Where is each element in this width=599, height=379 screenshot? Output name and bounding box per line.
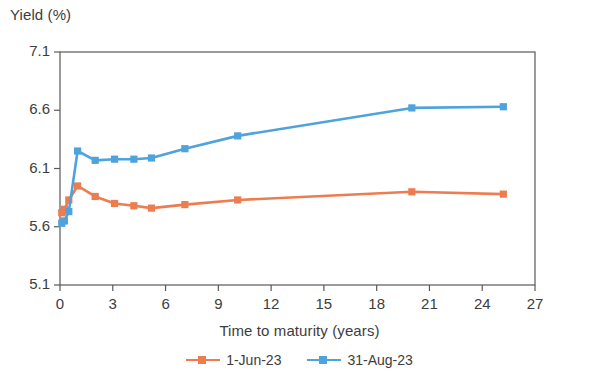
- data-point-marker: [148, 154, 155, 161]
- data-point-marker: [181, 201, 188, 208]
- data-point-marker: [65, 208, 72, 215]
- data-point-marker: [130, 156, 137, 163]
- data-series: [58, 103, 507, 227]
- legend-label: 31-Aug-23: [347, 352, 412, 368]
- plot-frame: [60, 52, 535, 285]
- data-point-marker: [408, 188, 415, 195]
- x-tick-label: 6: [146, 295, 186, 312]
- data-point-marker: [74, 147, 81, 154]
- data-point-marker: [92, 157, 99, 164]
- axes: [54, 52, 535, 291]
- legend-item-2[interactable]: 31-Aug-23: [307, 352, 412, 368]
- x-tick-label: 3: [93, 295, 133, 312]
- x-tick-label: 12: [251, 295, 291, 312]
- data-point-marker: [500, 103, 507, 110]
- y-tick-label: 6.6: [8, 100, 50, 117]
- data-point-marker: [61, 217, 68, 224]
- legend-swatch-icon: [307, 354, 341, 366]
- y-tick-label: 7.1: [8, 42, 50, 59]
- data-point-marker: [408, 104, 415, 111]
- data-point-marker: [92, 193, 99, 200]
- data-point-marker: [500, 191, 507, 198]
- x-tick-label: 9: [198, 295, 238, 312]
- data-point-marker: [111, 200, 118, 207]
- series-line-1: [62, 186, 504, 213]
- legend-marker: [198, 356, 206, 364]
- data-point-marker: [234, 132, 241, 139]
- x-axis-title: Time to maturity (years): [0, 322, 599, 339]
- x-tick-label: 15: [304, 295, 344, 312]
- legend-marker: [319, 356, 327, 364]
- y-tick-label: 6.1: [8, 159, 50, 176]
- x-tick-label: 0: [40, 295, 80, 312]
- yield-curve-chart: Yield (%) 5.15.66.16.67.1 03691215182124…: [0, 0, 599, 379]
- x-tick-label: 27: [515, 295, 555, 312]
- y-tick-label: 5.6: [8, 217, 50, 234]
- x-tick-label: 18: [357, 295, 397, 312]
- data-point-marker: [130, 202, 137, 209]
- x-tick-label: 21: [409, 295, 449, 312]
- data-point-marker: [111, 156, 118, 163]
- data-point-marker: [181, 145, 188, 152]
- legend-swatch-icon: [186, 354, 220, 366]
- y-tick-label: 5.1: [8, 275, 50, 292]
- data-point-marker: [148, 205, 155, 212]
- legend-label: 1-Jun-23: [226, 352, 281, 368]
- data-point-marker: [234, 196, 241, 203]
- chart-legend: 1-Jun-2331-Aug-23: [0, 352, 599, 368]
- data-point-marker: [74, 182, 81, 189]
- x-tick-label: 24: [462, 295, 502, 312]
- legend-item-1[interactable]: 1-Jun-23: [186, 352, 281, 368]
